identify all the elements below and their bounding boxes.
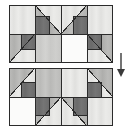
block-bottom <box>9 68 113 126</box>
block-bottom-r1c1-dark-square <box>21 82 35 97</box>
block-top-r2c2-light-square <box>35 34 61 63</box>
block-bottom-r2c1-white-square <box>9 97 35 126</box>
block-bottom-r1c3-light-square <box>61 68 87 97</box>
down-arrow-head-icon <box>117 69 125 77</box>
block-top-r1c4-light-square <box>87 5 113 34</box>
block-bottom-r1c2-medium-square <box>35 68 61 97</box>
block-bottom-r2c4-light-square <box>87 97 113 126</box>
block-top-r2c3-white-square <box>61 34 87 63</box>
quilt-diagram-canvas: Quilt block assembly diagram Two pieced … <box>0 0 132 129</box>
block-bottom-r1c4-dark-square <box>87 82 101 97</box>
down-arrow <box>112 52 130 78</box>
block-top <box>9 5 113 63</box>
block-top-r1c1-light-square <box>9 5 35 34</box>
